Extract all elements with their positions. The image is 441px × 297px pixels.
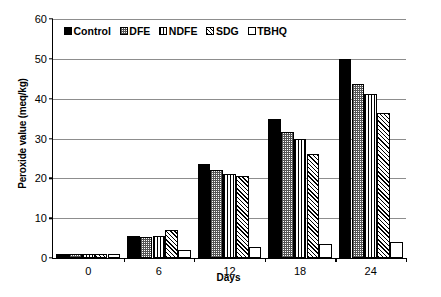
x-tick-mark-0 <box>124 258 125 262</box>
legend-label-tbhq: TBHQ <box>257 26 287 37</box>
legend-entry-control: Control <box>64 26 111 37</box>
bar-dfe-day-6 <box>140 237 153 259</box>
y-tick-mark-30 <box>49 138 53 139</box>
bar-sdg-day-0 <box>95 254 108 258</box>
legend-swatch-ndfe-icon <box>159 27 167 35</box>
legend-swatch-control-icon <box>64 27 72 35</box>
gridline-y-60 <box>53 19 406 20</box>
legend-entry-ndfe: NDFE <box>159 26 197 37</box>
bar-tbhq-day-12 <box>249 247 262 258</box>
y-tick-mark-10 <box>49 217 53 218</box>
bar-sdg-day-18 <box>307 154 320 258</box>
bar-ndfe-day-6 <box>153 236 166 258</box>
legend-swatch-sdg-icon <box>206 27 214 35</box>
bar-dfe-day-18 <box>281 132 294 258</box>
x-tick-mark-24 <box>406 258 407 262</box>
bar-dfe-day-24 <box>352 84 365 258</box>
legend-entry-dfe: DFE <box>120 26 151 37</box>
y-tick-mark-60 <box>49 18 53 19</box>
bar-tbhq-day-24 <box>390 242 403 258</box>
legend-swatch-dfe-icon <box>120 27 128 35</box>
peroxide-value-bar-chart: Peroxide value (meq/kg) 0102030405060061… <box>0 0 441 297</box>
bar-sdg-day-6 <box>165 230 178 258</box>
legend-label-sdg: SDG <box>216 26 239 37</box>
y-tick-label-50: 50 <box>35 53 47 65</box>
bar-control-day-24 <box>339 59 352 258</box>
chart-legend: ControlDFENDFESDGTBHQ <box>64 26 287 37</box>
x-tick-mark-18 <box>335 258 336 262</box>
bar-control-day-18 <box>268 119 281 258</box>
gridline-y-50 <box>53 59 406 60</box>
legend-entry-tbhq: TBHQ <box>248 26 287 37</box>
legend-label-control: Control <box>74 26 111 37</box>
bar-tbhq-day-18 <box>319 244 332 258</box>
bar-sdg-day-12 <box>236 176 249 258</box>
bar-dfe-day-12 <box>210 170 223 258</box>
y-tick-label-0: 0 <box>41 252 47 264</box>
bar-control-day-12 <box>198 164 211 258</box>
bar-ndfe-day-0 <box>82 254 95 258</box>
bar-dfe-day-0 <box>69 254 82 258</box>
legend-entry-sdg: SDG <box>206 26 238 37</box>
legend-label-dfe: DFE <box>129 26 150 37</box>
bar-sdg-day-24 <box>377 113 390 258</box>
y-tick-label-40: 40 <box>35 93 47 105</box>
legend-swatch-tbhq-icon <box>248 27 256 35</box>
bar-tbhq-day-6 <box>178 250 191 258</box>
x-axis-title: Days <box>52 272 405 283</box>
bar-ndfe-day-12 <box>223 174 236 258</box>
bar-tbhq-day-0 <box>108 254 121 258</box>
bar-ndfe-day-18 <box>294 139 307 259</box>
bar-control-day-0 <box>56 254 69 258</box>
y-tick-mark-50 <box>49 58 53 59</box>
y-axis-title: Peroxide value (meq/kg) <box>17 39 28 229</box>
y-tick-label-10: 10 <box>35 212 47 224</box>
x-tick-mark-6 <box>194 258 195 262</box>
y-tick-mark-20 <box>49 178 53 179</box>
bar-control-day-6 <box>127 236 140 258</box>
y-tick-label-20: 20 <box>35 172 47 184</box>
bar-ndfe-day-24 <box>364 94 377 259</box>
y-tick-label-30: 30 <box>35 133 47 145</box>
plot-area: 010203040506006121824 <box>52 19 406 259</box>
y-tick-mark-0 <box>49 257 53 258</box>
x-tick-mark-12 <box>265 258 266 262</box>
legend-label-ndfe: NDFE <box>169 26 198 37</box>
y-tick-label-60: 60 <box>35 13 47 25</box>
y-tick-mark-40 <box>49 98 53 99</box>
